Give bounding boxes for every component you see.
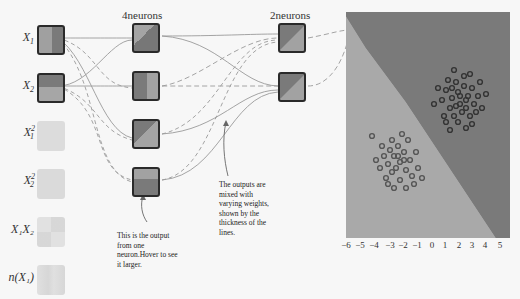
layer-title-hidden1: 4neurons bbox=[122, 9, 162, 21]
input-node-sin-x1[interactable] bbox=[37, 265, 65, 295]
x-tick: 0 bbox=[430, 240, 435, 250]
x-tick: −2 bbox=[398, 240, 408, 250]
weight-line bbox=[58, 86, 132, 180]
weight-line bbox=[58, 38, 132, 138]
feature-label-x1: X1 bbox=[0, 30, 34, 46]
weight-line bbox=[162, 34, 278, 36]
arrowhead-icon bbox=[223, 120, 229, 126]
feature-label-sin-x1: n(X₁) bbox=[0, 270, 34, 285]
hidden1-neuron-1[interactable] bbox=[132, 23, 160, 53]
x-tick: 5 bbox=[498, 240, 503, 250]
hidden1-neuron-2[interactable] bbox=[132, 71, 160, 101]
node-connector bbox=[304, 33, 306, 41]
node-connector bbox=[158, 177, 160, 185]
x-tick: −3 bbox=[385, 240, 395, 250]
feature-label-x2: X2 bbox=[0, 78, 34, 94]
weight-line bbox=[308, 30, 350, 38]
x-tick: 3 bbox=[470, 240, 475, 250]
node-connector bbox=[158, 81, 160, 89]
x-axis-ticks: −6 −5 −4 −3 −2 −1 0 1 2 3 4 5 bbox=[340, 240, 515, 254]
weight-line bbox=[58, 38, 132, 88]
hidden1-neuron-4[interactable] bbox=[132, 167, 160, 197]
weight-line bbox=[162, 38, 278, 86]
annotation-weights: The outputs are mixed with varying weigh… bbox=[219, 180, 275, 237]
weight-line bbox=[58, 38, 132, 182]
weight-line bbox=[162, 42, 278, 180]
weight-line bbox=[308, 30, 350, 86]
input-node-x2[interactable] bbox=[37, 73, 65, 103]
decision-boundary bbox=[346, 12, 510, 238]
feature-label-x1x2: X₁X₂ bbox=[0, 222, 34, 237]
input-node-x1-squared[interactable] bbox=[37, 121, 65, 151]
node-connector bbox=[63, 35, 65, 43]
x-tick: −6 bbox=[341, 240, 351, 250]
layer-title-hidden2: 2neurons bbox=[270, 9, 310, 21]
output-decision-plot[interactable] bbox=[346, 12, 510, 238]
x-tick: −4 bbox=[369, 240, 379, 250]
x-tick: −5 bbox=[355, 240, 365, 250]
feature-label-x2-squared: X22 bbox=[0, 172, 34, 189]
weight-line bbox=[58, 40, 132, 86]
feature-label-x1-squared: X21 bbox=[0, 124, 34, 141]
node-connector bbox=[158, 129, 160, 137]
x-tick: 4 bbox=[483, 240, 488, 250]
annotation-neuron-output: This is the output from one neuron.Hover… bbox=[117, 231, 179, 269]
input-node-x1x2[interactable] bbox=[37, 217, 65, 247]
node-connector bbox=[63, 83, 65, 91]
input-node-x1[interactable] bbox=[37, 25, 65, 55]
node-connector bbox=[304, 82, 306, 90]
x-tick: 1 bbox=[443, 240, 448, 250]
x-tick: 2 bbox=[457, 240, 462, 250]
node-connector bbox=[158, 33, 160, 41]
playground-diagram: 4neurons 2neurons X1 X2 X21 X22 X₁X₂ n(X… bbox=[0, 0, 520, 299]
weight-line bbox=[162, 40, 278, 134]
x-tick: −1 bbox=[412, 240, 422, 250]
hidden2-neuron-1[interactable] bbox=[278, 23, 306, 53]
hidden1-neuron-3[interactable] bbox=[132, 119, 160, 149]
hidden2-neuron-2[interactable] bbox=[278, 72, 306, 102]
input-node-x2-squared[interactable] bbox=[37, 169, 65, 199]
weight-line bbox=[162, 92, 278, 180]
